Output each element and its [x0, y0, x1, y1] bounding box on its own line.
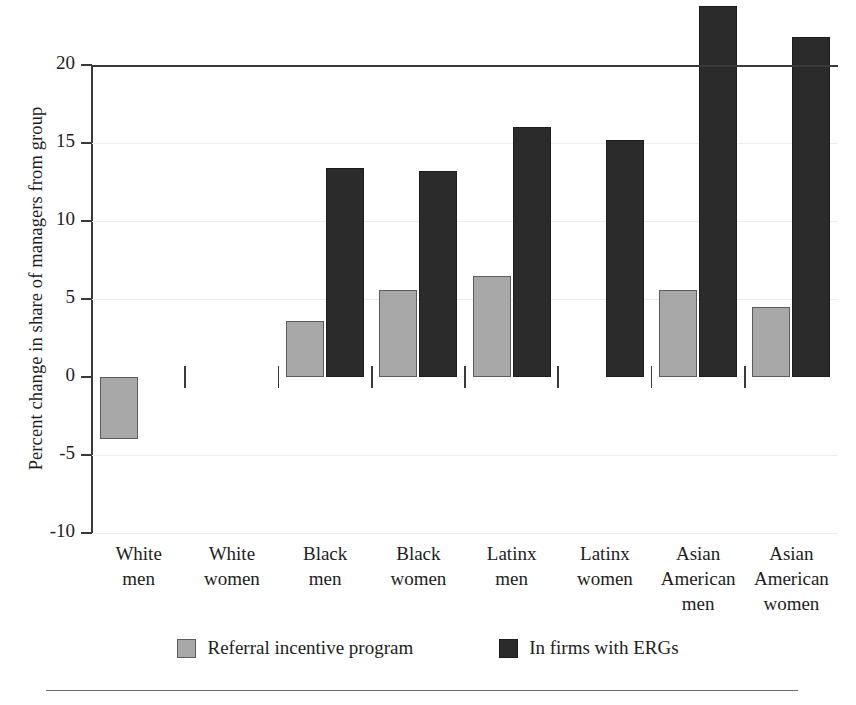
category-label-line: Black	[372, 541, 465, 566]
y-axis-tick-label: 10	[56, 208, 75, 230]
y-axis-tick	[81, 64, 92, 66]
y-axis-tick-label: 15	[56, 130, 75, 152]
category-label-line: women	[372, 566, 465, 591]
bar	[286, 321, 324, 377]
category-label-line: men	[652, 591, 745, 616]
x-axis-tick	[371, 366, 373, 388]
y-axis-tick-label: 5	[66, 286, 76, 308]
legend-label: In firms with ERGs	[529, 637, 678, 659]
category-label-line: White	[185, 541, 278, 566]
y-axis-tick-label: -5	[59, 442, 75, 464]
category-label-line: women	[185, 566, 278, 591]
bar	[659, 290, 697, 377]
bar	[606, 140, 644, 377]
bar-chart-figure: Percent change in share of managers from…	[0, 0, 856, 705]
x-axis-category-label: AsianAmericanwomen	[745, 541, 838, 616]
x-axis-tick	[744, 366, 746, 388]
gridline	[92, 455, 838, 456]
legend-label: Referral incentive program	[207, 637, 413, 659]
legend-swatch-icon	[499, 639, 518, 658]
y-axis-tick	[81, 142, 92, 144]
category-label-line: women	[745, 591, 838, 616]
bar	[752, 307, 790, 377]
category-label-line: Black	[279, 541, 372, 566]
y-axis-tick	[81, 454, 92, 456]
y-axis-tick	[81, 298, 92, 300]
y-axis-title: Percent change in share of managers from…	[26, 39, 47, 539]
category-label-line: men	[465, 566, 558, 591]
x-axis-category-label: Latinxmen	[465, 541, 558, 591]
category-label-line: men	[92, 566, 185, 591]
x-axis-category-label: Blackwomen	[372, 541, 465, 591]
bar	[419, 171, 457, 377]
bar	[379, 290, 417, 377]
bar	[473, 276, 511, 377]
x-axis-tick	[278, 366, 280, 388]
x-axis-tick	[184, 366, 186, 388]
legend-item[interactable]: Referral incentive program	[177, 637, 413, 659]
y-axis-tick	[81, 376, 92, 378]
category-label-line: Asian	[652, 541, 745, 566]
chart-legend: Referral incentive programIn firms with …	[0, 637, 856, 659]
category-label-line: Latinx	[558, 541, 651, 566]
x-axis-category-label: Blackmen	[279, 541, 372, 591]
y-axis-tick	[81, 532, 92, 534]
bar	[100, 377, 138, 439]
x-axis-tick	[651, 366, 653, 388]
bar	[699, 6, 737, 377]
category-label-line: White	[92, 541, 185, 566]
bottom-divider	[46, 690, 798, 691]
gridline	[92, 533, 838, 534]
category-label-line: Asian	[745, 541, 838, 566]
zero-baseline	[92, 65, 838, 67]
category-label-line: American	[652, 566, 745, 591]
bar	[326, 168, 364, 377]
x-axis-category-label: Whitemen	[92, 541, 185, 591]
category-label-line: men	[279, 566, 372, 591]
y-axis-tick-label: 0	[66, 364, 76, 386]
legend-swatch-icon	[177, 639, 196, 658]
y-axis-tick-label: 20	[56, 52, 75, 74]
legend-item[interactable]: In firms with ERGs	[499, 637, 678, 659]
x-axis-category-label: AsianAmericanmen	[652, 541, 745, 616]
category-label-line: women	[558, 566, 651, 591]
bar	[792, 37, 830, 377]
x-axis-tick	[557, 366, 559, 388]
x-axis-category-label: Whitewomen	[185, 541, 278, 591]
x-axis-tick	[464, 366, 466, 388]
plot-area	[92, 65, 838, 533]
y-axis-tick-label: -10	[50, 520, 75, 542]
bar	[513, 127, 551, 377]
x-axis-category-label: Latinxwomen	[558, 541, 651, 591]
y-axis-tick	[81, 220, 92, 222]
category-label-line: American	[745, 566, 838, 591]
category-label-line: Latinx	[465, 541, 558, 566]
